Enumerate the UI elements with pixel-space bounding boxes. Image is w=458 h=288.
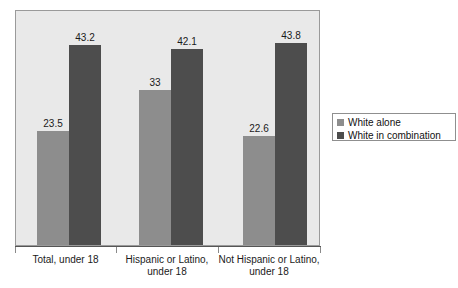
legend-item-white-in-combination: White in combination <box>337 129 452 141</box>
x-axis-tick-3 <box>320 247 321 253</box>
x-axis-label-total-under-18: Total, under 18 <box>15 254 116 266</box>
legend-label: White in combination <box>348 130 441 141</box>
bar-white-in-combination-hispanic <box>171 49 203 245</box>
bar-group-total-under-18: 23.5 43.2 <box>16 11 117 245</box>
legend-swatch-icon <box>337 119 344 126</box>
bars-container: 23.5 43.2 33 42.1 22.6 43.8 <box>16 11 319 245</box>
bar-white-alone-hispanic <box>139 90 171 245</box>
x-axis-tick-2 <box>218 247 219 253</box>
x-axis-label-line: under 18 <box>218 266 320 278</box>
plot-area: 23.5 43.2 33 42.1 22.6 43.8 <box>15 10 320 246</box>
chart-legend: White alone White in combination <box>332 113 456 141</box>
bar-value-label-white-in-combination-not-hispanic: 43.8 <box>275 30 307 41</box>
bar-group-hispanic-or-latino-under-18: 33 42.1 <box>117 11 219 245</box>
bar-white-alone-total <box>37 131 69 245</box>
x-axis-label-line: Hispanic or Latino, <box>116 254 218 266</box>
bar-value-label-white-in-combination-total: 43.2 <box>69 32 101 43</box>
x-axis-label-not-hispanic-or-latino-under-18: Not Hispanic or Latino, under 18 <box>218 254 320 278</box>
x-axis-label-hispanic-or-latino-under-18: Hispanic or Latino, under 18 <box>116 254 218 278</box>
bar-white-alone-not-hispanic <box>243 136 275 245</box>
bar-chart-figure: 23.5 43.2 33 42.1 22.6 43.8 Total, <box>0 0 458 288</box>
bar-white-in-combination-not-hispanic <box>275 43 307 245</box>
legend-swatch-icon <box>337 132 344 139</box>
x-axis-line <box>15 246 321 247</box>
bar-group-not-hispanic-or-latino-under-18: 22.6 43.8 <box>219 11 321 245</box>
x-axis-label-line: under 18 <box>116 266 218 278</box>
x-axis-tick-0 <box>15 247 16 253</box>
legend-label: White alone <box>348 117 401 128</box>
bar-value-label-white-alone-total: 23.5 <box>37 118 69 129</box>
bar-value-label-white-alone-hispanic: 33 <box>139 77 171 88</box>
bar-white-in-combination-total <box>69 45 101 245</box>
x-axis-tick-1 <box>116 247 117 253</box>
legend-item-white-alone: White alone <box>337 116 452 128</box>
bar-value-label-white-in-combination-hispanic: 42.1 <box>171 36 203 47</box>
bar-value-label-white-alone-not-hispanic: 22.6 <box>243 123 275 134</box>
x-axis-label-line: Total, under 18 <box>15 254 116 266</box>
x-axis-label-line: Not Hispanic or Latino, <box>218 254 320 266</box>
